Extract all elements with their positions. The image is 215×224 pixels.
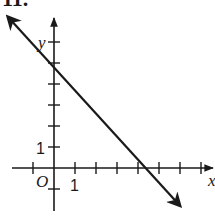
origin-label: O xyxy=(36,172,48,191)
y-tick-label-1: 1 xyxy=(36,140,45,157)
plot-line xyxy=(8,17,180,206)
x-axis-label: x xyxy=(207,171,215,190)
coordinate-plane: y x O 1 1 xyxy=(0,0,215,224)
axis-labels: y x O 1 1 xyxy=(36,33,215,194)
y-axis-label: y xyxy=(36,33,46,52)
line-series xyxy=(8,17,180,206)
x-tick-label-1: 1 xyxy=(70,177,79,194)
tick-marks xyxy=(33,42,201,189)
